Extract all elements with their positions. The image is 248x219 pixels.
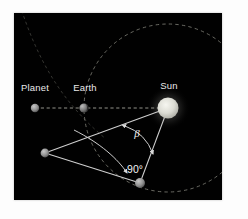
planet-label: Planet [21, 82, 49, 93]
planet-left-vertex-sphere[interactable] [41, 149, 50, 158]
planet-sphere[interactable] [31, 104, 39, 112]
diagram-canvas: Planet Earth Sun β 90° [14, 13, 222, 200]
earth-label: Earth [73, 82, 97, 93]
planet-bottom-vertex-sphere[interactable] [135, 178, 145, 188]
figure-root: Planet Earth Sun β 90° [0, 0, 248, 219]
earth-sphere[interactable] [79, 103, 88, 112]
right-angle-label: 90° [127, 163, 143, 175]
beta-angle-label: β [133, 127, 140, 139]
right-angle-arc [74, 130, 127, 173]
sun-label: Sun [160, 80, 178, 91]
sky-panel: Planet Earth Sun β 90° [14, 13, 222, 200]
sun-sphere[interactable] [158, 98, 179, 119]
line-planet-to-bottom-planet [45, 153, 140, 183]
planet-outer-orbit-arc [18, 13, 106, 139]
